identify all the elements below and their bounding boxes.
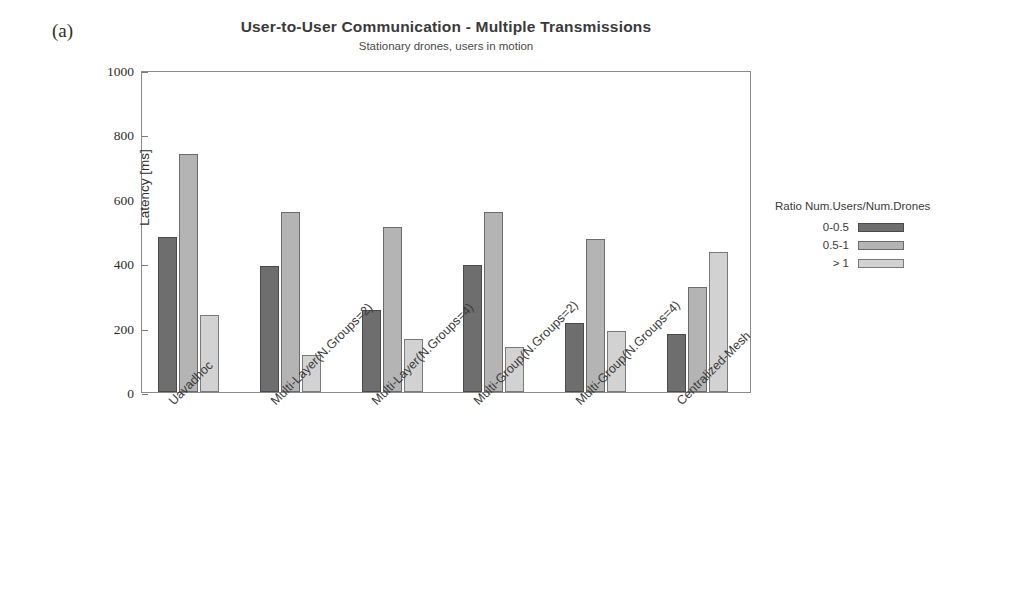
legend-swatch bbox=[858, 241, 904, 250]
legend-item[interactable]: 0.5-1 bbox=[775, 236, 990, 254]
legend-item-label: 0.5-1 bbox=[775, 239, 858, 251]
bar-group bbox=[158, 72, 219, 392]
bar bbox=[179, 154, 198, 392]
y-tick-label: 1000 bbox=[88, 64, 134, 80]
bar-group bbox=[362, 72, 423, 392]
legend-swatch bbox=[858, 259, 904, 268]
legend-item-label: > 1 bbox=[775, 257, 858, 269]
y-axis-label: Latency [ms] bbox=[137, 98, 152, 278]
bar-group bbox=[565, 72, 626, 392]
bar bbox=[281, 212, 300, 392]
legend-item[interactable]: > 1 bbox=[775, 254, 990, 272]
y-tick-mark bbox=[142, 201, 148, 202]
panel-label: (a) bbox=[52, 20, 73, 42]
bar-group bbox=[260, 72, 321, 392]
bar bbox=[260, 266, 279, 392]
legend-swatch bbox=[858, 223, 904, 232]
y-tick-mark bbox=[142, 72, 148, 73]
y-tick-mark bbox=[142, 136, 148, 137]
legend-item[interactable]: 0-0.5 bbox=[775, 218, 990, 236]
y-tick-label: 600 bbox=[88, 193, 134, 209]
bar bbox=[362, 310, 381, 392]
bar-group bbox=[463, 72, 524, 392]
legend-entries: 0-0.50.5-1> 1 bbox=[775, 218, 990, 272]
y-tick-label: 400 bbox=[88, 257, 134, 273]
y-tick-label: 800 bbox=[88, 128, 134, 144]
chart-title: User-to-User Communication - Multiple Tr… bbox=[141, 18, 751, 36]
title-block: User-to-User Communication - Multiple Tr… bbox=[141, 18, 751, 52]
y-tick-mark bbox=[142, 265, 148, 266]
legend: Ratio Num.Users/Num.Drones 0-0.50.5-1> 1 bbox=[775, 200, 990, 272]
bar bbox=[158, 237, 177, 392]
legend-item-label: 0-0.5 bbox=[775, 221, 858, 233]
y-tick-mark bbox=[142, 330, 148, 331]
bar bbox=[484, 212, 503, 392]
bar bbox=[565, 323, 584, 392]
legend-title: Ratio Num.Users/Num.Drones bbox=[775, 200, 990, 212]
bar bbox=[667, 334, 686, 392]
bar-group bbox=[667, 72, 728, 392]
y-tick-label: 0 bbox=[88, 386, 134, 402]
y-tick-mark bbox=[142, 394, 148, 395]
plot-area: Latency [ms] 02004006008001000 bbox=[141, 71, 751, 393]
chart-subtitle: Stationary drones, users in motion bbox=[141, 40, 751, 52]
bar bbox=[463, 265, 482, 392]
y-tick-label: 200 bbox=[88, 322, 134, 338]
